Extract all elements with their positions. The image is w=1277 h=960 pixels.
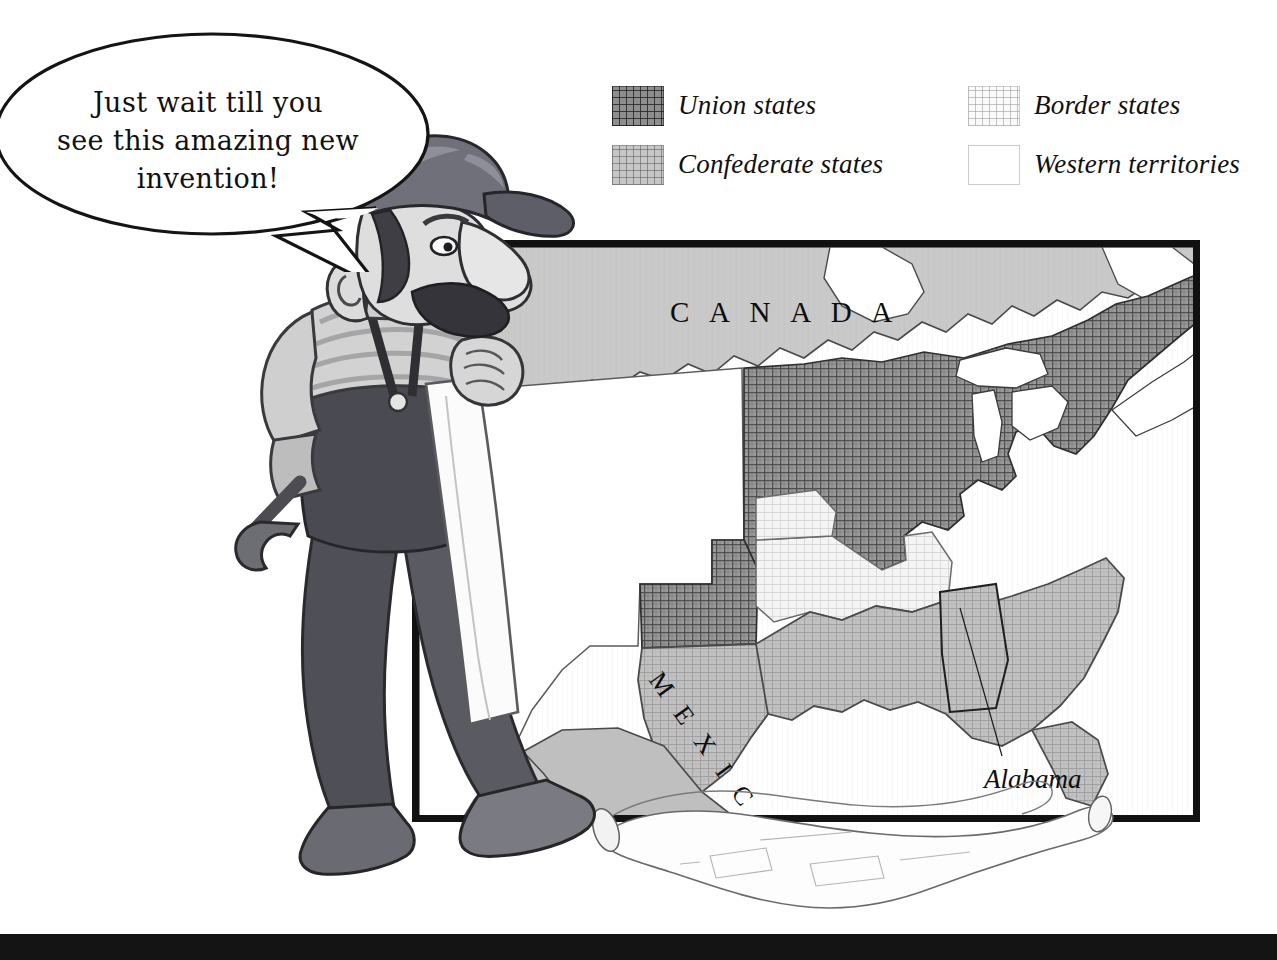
- alabama-state-outline: [940, 584, 1008, 712]
- speech-line-3: invention!: [28, 160, 388, 198]
- legend-column-right: Border states Western territories: [968, 76, 1240, 194]
- figure-right-hand: [451, 336, 523, 405]
- legend-column-left: Union states Confederate states: [612, 76, 883, 194]
- figure-left-leg: [302, 528, 400, 818]
- rolled-blueprints: [560, 744, 1140, 924]
- legend-item-union: Union states: [612, 76, 883, 135]
- figure-left-boot: [300, 804, 414, 874]
- legend-item-western: Western territories: [968, 135, 1240, 194]
- map-legend: Union states Confederate states Border s…: [612, 76, 1272, 194]
- speech-line-1: Just wait till you: [28, 84, 388, 122]
- wrench-tool: [236, 482, 300, 570]
- legend-label-confederate: Confederate states: [678, 149, 883, 180]
- figure-left-arm: [262, 312, 320, 444]
- speech-bubble-text: Just wait till you see this amazing new …: [28, 84, 388, 198]
- canada-label: C A N A D A: [670, 296, 899, 328]
- page-bottom-bar: [0, 934, 1277, 960]
- legend-item-border: Border states: [968, 76, 1240, 135]
- speech-line-2: see this amazing new: [28, 122, 388, 160]
- western-blank-swatch: [968, 145, 1020, 185]
- illustration-stage: C A N A D A M E X I C O Alabama: [0, 0, 1277, 960]
- legend-label-border: Border states: [1034, 90, 1180, 121]
- confederate-pattern-swatch: [612, 145, 664, 185]
- legend-label-western: Western territories: [1034, 149, 1240, 180]
- figure-cap-brim: [484, 192, 573, 236]
- union-pattern-swatch: [612, 86, 664, 126]
- legend-label-union: Union states: [678, 90, 816, 121]
- figure-strap-button: [389, 393, 407, 411]
- border-pattern-swatch: [968, 86, 1020, 126]
- speech-bubble: Just wait till you see this amazing new …: [0, 22, 456, 272]
- legend-item-confederate: Confederate states: [612, 135, 883, 194]
